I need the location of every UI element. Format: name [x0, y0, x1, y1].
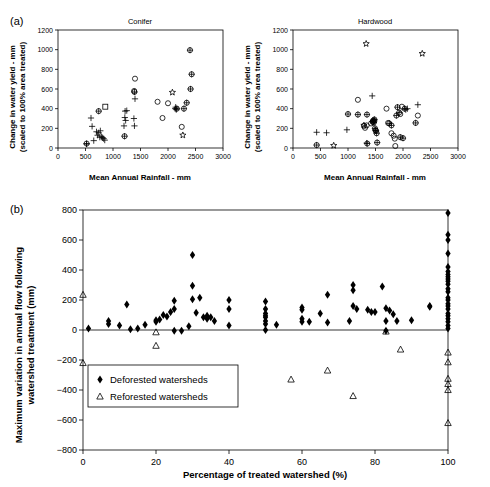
y-tick-label: 800 [41, 66, 53, 73]
marker-filled-diamond [197, 294, 202, 302]
y-tick-label: −200 [57, 355, 77, 365]
marker-star [169, 89, 175, 95]
marker-circle [415, 113, 420, 118]
x-tick-label: 1000 [340, 153, 356, 160]
marker-crossed-circle [400, 135, 406, 141]
conifer-title: Conifer [128, 17, 153, 26]
x-tick-label: 0 [291, 153, 295, 160]
conifer-ylabel-line1: Change in water yield - mm [8, 45, 17, 149]
marker-square [103, 104, 108, 109]
marker-crossed-circle [345, 111, 351, 117]
marker-filled-diamond [263, 298, 268, 306]
marker-plus [323, 130, 329, 136]
marker-open-triangle [288, 376, 294, 382]
marker-filled-diamond [142, 321, 147, 329]
conifer-xlabel: Mean Annual Rainfall - mm [89, 173, 191, 182]
marker-filled-diamond [394, 317, 399, 325]
hardwood-subpanel: Hardwood Change in water yield - mm (sca… [243, 17, 466, 182]
hardwood-ylabel-line2: (scaled to 100% area treated) [253, 42, 262, 153]
marker-crossed-circle [174, 106, 180, 112]
x-tick-label: 1000 [105, 153, 121, 160]
panelb-ylabel-line1: Maximum variation in annual flow followi… [13, 247, 24, 444]
hardwood-xlabel: Mean Annual Rainfall - mm [324, 173, 426, 182]
figure-container: (a) Conifer Change in water yield - mm (… [0, 0, 490, 487]
marker-circle [384, 106, 389, 111]
marker-filled-diamond [350, 286, 355, 294]
legend-label-deforested: Deforested watersheds [110, 374, 208, 385]
x-tick-label: 1500 [133, 153, 149, 160]
marker-filled-diamond [427, 303, 432, 311]
marker-crossed-circle [364, 111, 370, 117]
marker-filled-diamond [372, 308, 377, 316]
marker-filled-diamond [117, 322, 122, 330]
marker-filled-diamond [190, 295, 195, 303]
panel-b-tag: (b) [10, 203, 23, 215]
marker-filled-diamond [409, 316, 414, 324]
marker-crossed-circle [396, 110, 402, 116]
conifer-ylabel-line2: (scaled to 100% area treated) [18, 42, 27, 153]
x-tick-label: 60 [297, 457, 307, 467]
panel-a-tag: (a) [10, 15, 23, 27]
marker-plus [122, 108, 128, 114]
marker-filled-diamond [124, 301, 129, 309]
marker-crossed-circle [189, 71, 195, 77]
marker-filled-diamond [135, 325, 140, 333]
y-tick-label: 800 [276, 66, 288, 73]
marker-open-triangle [153, 342, 159, 348]
marker-filled-diamond [274, 321, 279, 329]
y-tick-label: 0 [284, 145, 288, 152]
x-tick-label: 2500 [423, 153, 439, 160]
marker-filled-diamond [186, 322, 191, 330]
x-tick-label: 2500 [188, 153, 204, 160]
y-tick-label: 400 [41, 105, 53, 112]
marker-filled-diamond [190, 251, 195, 259]
marker-filled-diamond [263, 326, 268, 334]
marker-filled-diamond [193, 309, 198, 317]
marker-plus [314, 129, 320, 135]
marker-plus [131, 123, 137, 129]
y-tick-label: 200 [62, 295, 77, 305]
marker-circle [155, 99, 160, 104]
y-tick-label: 1200 [37, 27, 53, 34]
marker-crossed-circle [121, 133, 127, 139]
y-tick-label: 600 [62, 235, 77, 245]
marker-filled-diamond [226, 305, 231, 313]
y-tick-label: 1200 [272, 27, 288, 34]
marker-filled-diamond [445, 236, 450, 244]
y-tick-label: 400 [62, 265, 77, 275]
marker-filled-diamond [325, 291, 330, 299]
marker-star [331, 142, 337, 148]
marker-plus [124, 108, 130, 114]
marker-circle [179, 124, 184, 129]
marker-plus [369, 93, 375, 99]
marker-plus [403, 107, 409, 113]
marker-filled-diamond [380, 283, 385, 291]
marker-filled-diamond [86, 325, 91, 333]
marker-plus [122, 114, 128, 120]
marker-plus [132, 96, 138, 102]
y-tick-label: −600 [57, 415, 77, 425]
hardwood-title: Hardwood [358, 17, 392, 26]
conifer-plot-frame [58, 30, 223, 148]
marker-filled-diamond [307, 318, 312, 326]
marker-plus [89, 123, 95, 129]
marker-filled-diamond [347, 317, 352, 325]
marker-circle [160, 115, 165, 120]
marker-filled-diamond [172, 297, 177, 305]
marker-filled-diamond [226, 322, 231, 330]
panel-b: Maximum variation in annual flow followi… [13, 205, 456, 480]
x-tick-label: 2000 [395, 153, 411, 160]
marker-crossed-circle [181, 106, 187, 112]
x-tick-label: 40 [224, 457, 234, 467]
marker-star [180, 132, 186, 138]
x-tick-label: 80 [370, 457, 380, 467]
x-tick-label: 20 [151, 457, 161, 467]
marker-crossed-circle [364, 140, 370, 146]
marker-open-triangle [324, 367, 330, 373]
marker-plus [131, 115, 137, 121]
y-tick-label: 400 [276, 105, 288, 112]
marker-crossed-circle [187, 86, 193, 92]
hardwood-ticks: 0500100015002000250030000200400600800100… [272, 27, 465, 161]
y-tick-label: 1000 [272, 46, 288, 53]
y-tick-label: 800 [62, 205, 77, 215]
